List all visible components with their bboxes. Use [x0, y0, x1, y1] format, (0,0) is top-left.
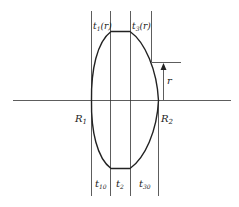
label-r: r [167, 75, 173, 86]
label-t30: t30 [139, 178, 151, 190]
label-t3r: t3(r) [132, 21, 151, 32]
lens-diagram: t1(r) t3(r) r R1 R2 t10 t2 t30 [0, 0, 239, 207]
label-R1: R1 [74, 113, 87, 126]
label-t10: t10 [95, 178, 107, 190]
label-t2: t2 [116, 178, 124, 190]
label-t1r: t1(r) [93, 21, 112, 32]
arrow-up-icon [161, 63, 167, 70]
lens-outline [91, 32, 158, 169]
label-R2: R2 [160, 113, 174, 126]
